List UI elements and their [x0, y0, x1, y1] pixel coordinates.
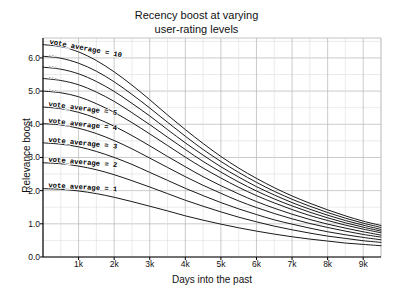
- x-tick-label: 1k: [74, 259, 83, 269]
- x-tick-label: 6k: [252, 259, 261, 269]
- x-tick-label: 7k: [288, 259, 297, 269]
- x-tick-label: 5k: [216, 259, 225, 269]
- x-tick-label: 9k: [359, 259, 368, 269]
- x-tick-label: 4k: [181, 259, 190, 269]
- x-tick-label: 3k: [145, 259, 154, 269]
- x-tick-label: 8k: [323, 259, 332, 269]
- plot-area: vote_average = 10............vote_averag…: [0, 0, 393, 296]
- x-tick-label: 2k: [110, 259, 119, 269]
- chart-container: Recency boost at varyinguser-rating leve…: [0, 0, 393, 296]
- series-inline-label: ...: [48, 86, 58, 93]
